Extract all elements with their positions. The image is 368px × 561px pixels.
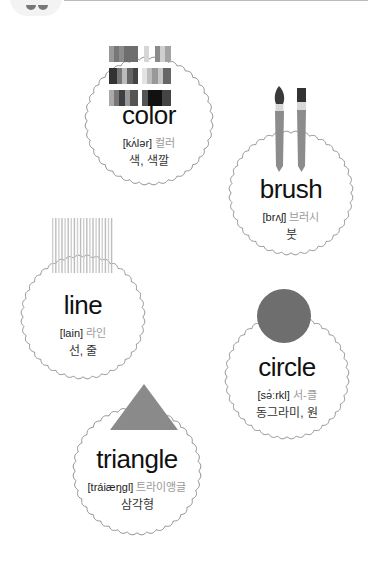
meaning: 색, 색깔 bbox=[82, 151, 216, 168]
meaning: 선, 줄 bbox=[18, 341, 148, 358]
page-header bbox=[0, 0, 368, 14]
meaning: 동그라미, 원 bbox=[222, 403, 352, 420]
paint-brushes-icon bbox=[270, 86, 314, 172]
header-ornament-icon bbox=[26, 0, 50, 2]
word: triangle bbox=[70, 444, 204, 475]
pronunciation: [lain] 라인 bbox=[18, 324, 148, 340]
pronunciation: [tráiæŋgl] 트라이앵글 bbox=[70, 478, 204, 494]
triangle-shape-icon bbox=[110, 384, 178, 430]
color-swatches-icon bbox=[109, 46, 173, 108]
vertical-lines-icon bbox=[52, 218, 114, 273]
meaning: 삼각형 bbox=[70, 495, 204, 512]
word: line bbox=[18, 290, 148, 321]
header-tab bbox=[10, 0, 62, 16]
header-divider bbox=[64, 0, 368, 1]
circle-shape-icon bbox=[256, 288, 312, 344]
pronunciation: [kʌ́lər] 컬러 bbox=[82, 134, 216, 150]
word: brush bbox=[226, 174, 356, 205]
meaning: 붓 bbox=[226, 225, 356, 242]
pronunciation: [brʌʃ] 브러시 bbox=[226, 208, 356, 224]
pronunciation: [sə́ːrkl] 서-클 bbox=[222, 386, 352, 402]
word: circle bbox=[222, 352, 352, 383]
